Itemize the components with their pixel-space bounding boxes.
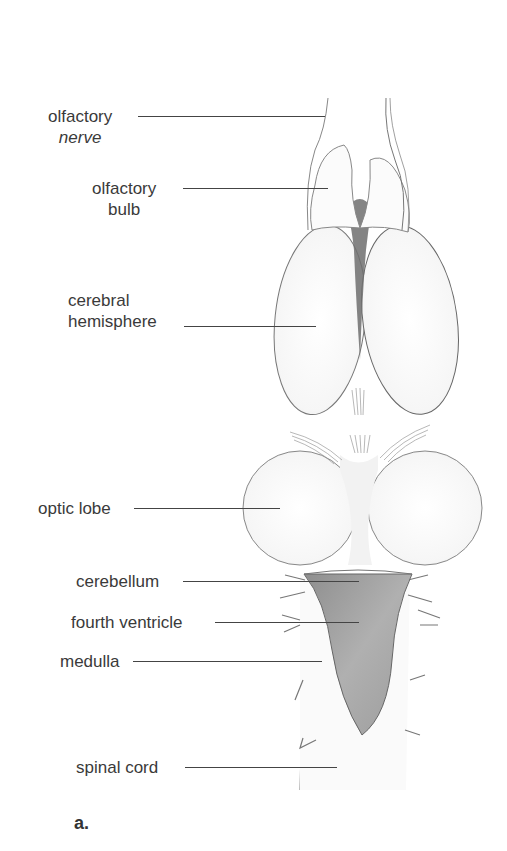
label-cerebral-hemisphere: cerebral hemisphere xyxy=(68,290,157,332)
cerebral-hemisphere-right xyxy=(350,219,470,420)
label-medulla: medulla xyxy=(60,651,120,672)
label-line: cerebral xyxy=(68,290,157,311)
label-cerebellum: cerebellum xyxy=(76,571,159,592)
cerebellum-shape xyxy=(304,570,412,574)
label-spinal-cord: spinal cord xyxy=(76,757,158,778)
label-line: hemisphere xyxy=(68,311,157,332)
leader-fourth-ventricle xyxy=(215,622,359,623)
leader-medulla xyxy=(133,661,322,662)
leader-cerebellum xyxy=(183,581,359,582)
leader-optic-lobe xyxy=(134,508,280,509)
leader-olfactory-bulb xyxy=(183,188,328,189)
olfactory-bulb-right xyxy=(360,158,409,232)
label-olfactory-bulb: olfactory bulb xyxy=(92,178,156,220)
label-olfactory-nerve: olfactory nerve xyxy=(48,106,112,148)
leader-cerebral-hemisphere xyxy=(184,326,316,327)
optic-lobe-right xyxy=(368,451,482,565)
leader-olfactory-nerve xyxy=(138,116,325,117)
label-optic-lobe: optic lobe xyxy=(38,498,111,519)
label-line: bulb xyxy=(92,199,156,220)
label-line: olfactory xyxy=(92,178,156,199)
label-line: nerve xyxy=(48,127,112,148)
leader-spinal-cord xyxy=(185,767,337,768)
panel-letter: a. xyxy=(74,813,89,834)
label-fourth-ventricle: fourth ventricle xyxy=(71,612,183,633)
label-line: olfactory xyxy=(48,106,112,127)
